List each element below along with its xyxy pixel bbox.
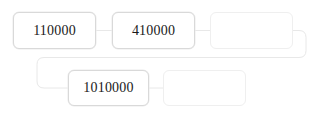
flow-node-1010000[interactable]: 1010000 xyxy=(68,70,149,106)
flow-node-empty-bottom-right[interactable] xyxy=(163,70,246,106)
flow-node-label: 110000 xyxy=(33,24,76,38)
flow-node-410000[interactable]: 410000 xyxy=(112,12,195,49)
flow-node-label: 410000 xyxy=(132,24,175,38)
flow-node-110000[interactable]: 110000 xyxy=(13,12,96,49)
flow-node-label: 1010000 xyxy=(83,81,133,95)
flow-node-empty-top-right[interactable] xyxy=(210,12,293,49)
flow-diagram-canvas: 110000 410000 1010000 xyxy=(0,0,317,123)
